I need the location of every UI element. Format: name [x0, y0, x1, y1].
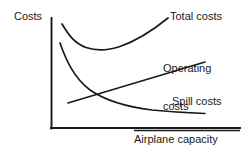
series-label-operating-costs-line1: Operating [163, 62, 211, 75]
cost-capacity-chart: Costs Total costs Operating costs Spill … [0, 0, 245, 151]
total-costs-curve [62, 18, 168, 50]
y-axis-label: Costs [14, 10, 42, 23]
series-label-total-costs: Total costs [170, 10, 222, 23]
series-label-operating-costs: Operating costs [163, 37, 211, 137]
series-label-spill-costs: Spill costs [172, 95, 222, 108]
x-axis-label: Airplane capacity [134, 133, 218, 146]
